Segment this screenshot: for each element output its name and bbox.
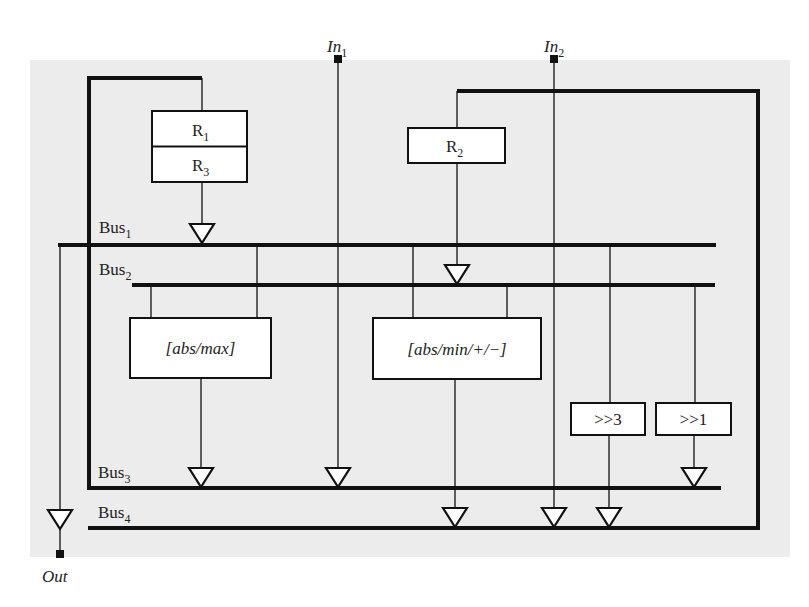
datapath-diagram: In1 In2 Out Bus1 Bus2 Bus3 Bus4 R1 R3 R2… [0, 0, 809, 607]
alu-abs-max-label: [abs/max] [166, 339, 236, 358]
alu-abs-min-addsub-label: [abs/min/+/−] [407, 340, 506, 359]
in2-pin [550, 55, 558, 63]
shift-right-3-label: >>3 [594, 410, 622, 429]
out-label: Out [42, 567, 69, 586]
out-pin-square [56, 550, 64, 558]
shift-right-1-label: >>1 [680, 410, 708, 429]
